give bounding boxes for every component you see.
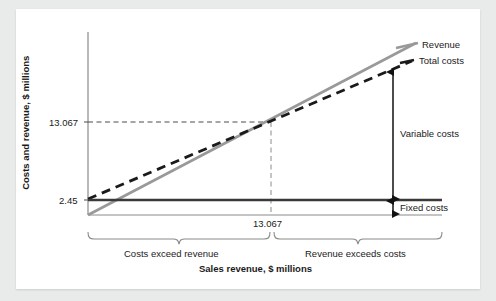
page-background: Costs and revenue, $ millions 13.067 2.4…	[0, 0, 496, 301]
annotation-fixed-costs: Fixed costs	[400, 203, 448, 213]
y-tick-label-upper: 13.067	[49, 118, 78, 128]
legend-label-total-costs: Total costs	[419, 56, 464, 66]
y-tick-label-lower: 2.45	[59, 196, 78, 206]
x-axis-title: Sales revenue, $ millions	[199, 264, 312, 274]
annotation-variable-costs: Variable costs	[400, 129, 459, 139]
annotation-right-region: Revenue exceeds costs	[305, 249, 406, 259]
left-region-brace	[88, 232, 270, 244]
annotation-left-region: Costs exceed revenue	[124, 249, 219, 259]
y-axis-title: Costs and revenue, $ millions	[21, 43, 31, 203]
right-region-brace	[274, 232, 442, 244]
x-tick-label-breakeven: 13.067	[253, 219, 282, 229]
legend-label-revenue: Revenue	[422, 40, 460, 50]
revenue-line	[88, 43, 416, 215]
